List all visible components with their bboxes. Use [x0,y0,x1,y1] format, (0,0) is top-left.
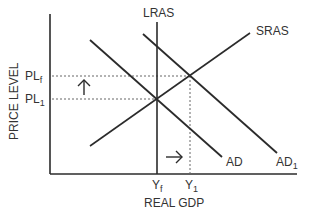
y-axis-label: PRICE LEVEL [7,62,21,140]
ad-label: AD [226,155,243,169]
sras-label: SRAS [256,24,289,38]
sras-curve [90,33,250,146]
x-axis-label: REAL GDP [144,196,204,210]
pl1-label: PL1 [25,92,45,108]
plf-label: PLf [25,69,43,85]
lras-label: LRAS [143,6,174,20]
ad-as-diagram: LRAS SRAS AD AD1 PLf PL1 Yf Y1 REAL GDP … [0,0,328,216]
yf-label: Yf [152,178,163,194]
up-arrow-icon [78,80,90,95]
right-arrow-icon [166,151,182,163]
y1-label: Y1 [185,178,198,194]
axes [50,14,297,174]
ad1-label: AD1 [276,155,298,171]
